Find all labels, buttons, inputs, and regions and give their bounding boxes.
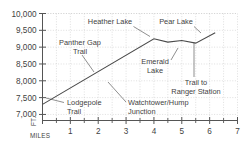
- chart-canvas: 7,0007,5008,0008,5009,0009,50010,000 123…: [0, 0, 249, 147]
- annotation-lodgepole-trail: LodgepoleTrail: [67, 98, 102, 116]
- annotation-label-line1: Emerald: [141, 57, 169, 66]
- y-tick-label: 7,500: [16, 94, 37, 103]
- x-tick-label: 6: [207, 127, 212, 136]
- x-tick-label: 4: [152, 127, 157, 136]
- leader-line-pear-lake: [194, 27, 201, 34]
- elevation-profile-chart: 7,0007,5008,0008,5009,0009,50010,000 123…: [0, 0, 249, 147]
- annotation-label-line2: Trail: [73, 47, 87, 56]
- y-tick-label: 10,000: [11, 10, 36, 19]
- y-axis-tick-labels: 7,0007,5008,0008,5009,0009,50010,000: [11, 10, 36, 120]
- annotation-label-line2: Ranger Station: [171, 87, 220, 96]
- annotation-trail-to-ranger-station: Trail toRanger Station: [171, 78, 220, 96]
- y-tick-label: 8,000: [16, 77, 37, 86]
- annotation-heather-lake: Heather Lake: [88, 17, 132, 26]
- annotation-label-line2: Lake: [147, 66, 163, 75]
- x-tick-label: 7: [235, 127, 240, 136]
- leader-line-emerald-lake: [171, 48, 178, 60]
- leader-line-heather-lake: [134, 27, 151, 37]
- x-tick-label: 3: [124, 127, 129, 136]
- annotation-label-line1: Heather Lake: [88, 17, 132, 26]
- annotation-label-line2: Junction: [128, 107, 156, 116]
- y-tick-label: 8,500: [16, 60, 37, 69]
- annotation-emerald-lake: EmeraldLake: [141, 57, 169, 75]
- leader-line-watchtower-hump-junction: [108, 82, 126, 102]
- y-tick-label: 9,000: [16, 43, 37, 52]
- x-tick-label: 5: [180, 127, 185, 136]
- annotation-label-line1: Lodgepole: [67, 98, 102, 107]
- x-axis-tick-labels: 1234567: [68, 127, 240, 136]
- x-tick-label: 2: [96, 127, 101, 136]
- leader-line-panther-gap-trail: [82, 55, 94, 72]
- annotation-label-line1: Trail to: [185, 78, 207, 87]
- annotation-label-line1: Pear Lake: [159, 17, 193, 26]
- annotation-watchtower-hump-junction: Watchtower/HumpJunction: [128, 98, 189, 116]
- annotation-label-line1: Watchtower/Hump: [128, 98, 189, 107]
- annotation-label-line2: Trail: [67, 107, 81, 116]
- annotation-label-line1: Panther Gap: [59, 38, 101, 47]
- x-tick-label: 1: [68, 127, 73, 136]
- annotation-pear-lake: Pear Lake: [159, 17, 193, 26]
- y-axis-title: FT.: [30, 117, 37, 126]
- y-tick-label: 9,500: [16, 26, 37, 35]
- x-axis-title: MILES: [30, 132, 50, 139]
